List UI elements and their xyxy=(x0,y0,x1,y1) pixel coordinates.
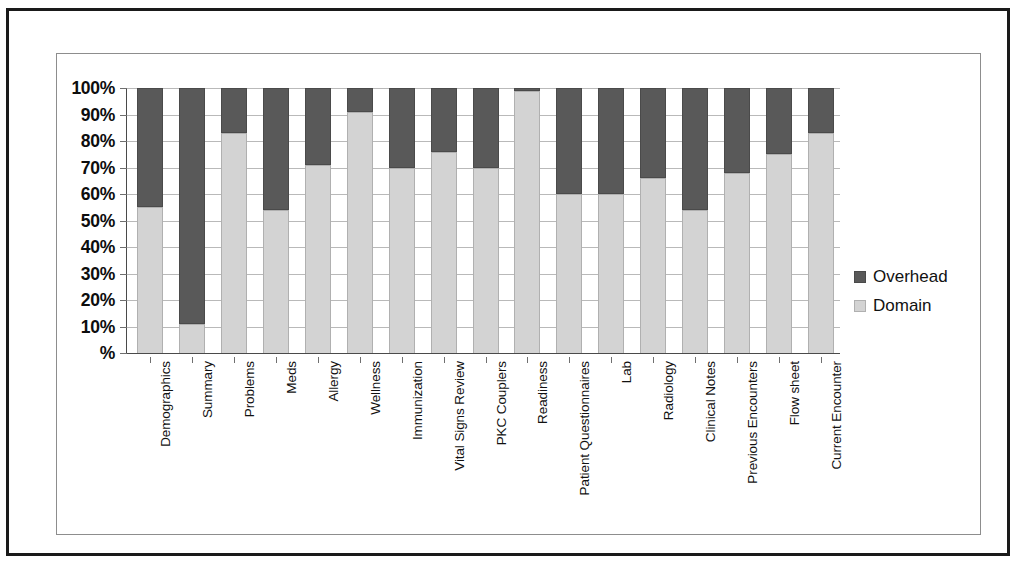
bar-segment-overhead[interactable] xyxy=(431,88,457,152)
x-axis-category-text: Patient Questionnaires xyxy=(577,361,592,495)
bar-column[interactable] xyxy=(137,88,163,353)
x-axis-category-label: Patient Questionnaires xyxy=(556,357,582,527)
y-axis-tick-mark xyxy=(120,221,127,222)
y-axis-tick-mark xyxy=(120,88,127,89)
bar-segment-overhead[interactable] xyxy=(514,88,540,91)
bar-column[interactable] xyxy=(473,88,499,353)
bar-column[interactable] xyxy=(598,88,624,353)
y-axis-tick-mark xyxy=(120,115,127,116)
x-axis-category-text: Problems xyxy=(241,361,256,417)
y-axis-tick-label: 80% xyxy=(81,131,115,152)
legend-item[interactable]: Domain xyxy=(854,296,974,316)
bar-segment-domain[interactable] xyxy=(221,133,247,353)
y-axis-tick-mark xyxy=(120,353,127,354)
bar-segment-domain[interactable] xyxy=(682,210,708,353)
bar-segment-overhead[interactable] xyxy=(389,88,415,168)
bar-segment-domain[interactable] xyxy=(431,152,457,353)
bar-segment-domain[interactable] xyxy=(263,210,289,353)
bar-segment-overhead[interactable] xyxy=(305,88,331,165)
bar-segment-overhead[interactable] xyxy=(808,88,834,133)
bar-column[interactable] xyxy=(179,88,205,353)
y-axis-tick-mark xyxy=(120,141,127,142)
x-axis-category-text: Lab xyxy=(619,361,634,383)
bar-segment-overhead[interactable] xyxy=(137,88,163,207)
bar-segment-overhead[interactable] xyxy=(556,88,582,194)
bar-segment-domain[interactable] xyxy=(640,178,666,353)
bar-segment-overhead[interactable] xyxy=(347,88,373,112)
bar-segment-domain[interactable] xyxy=(137,207,163,353)
y-axis-tick-label: 50% xyxy=(81,210,115,231)
bar-column[interactable] xyxy=(682,88,708,353)
x-axis-category-text: Previous Encounters xyxy=(745,361,760,484)
x-axis-category-text: Allergy xyxy=(325,361,340,402)
bar-segment-overhead[interactable] xyxy=(766,88,792,154)
x-axis-category-label: Radiology xyxy=(640,357,666,527)
bar-column[interactable] xyxy=(808,88,834,353)
y-axis-tick-mark xyxy=(120,300,127,301)
x-axis-category-label: Problems xyxy=(221,357,247,527)
chart-canvas: %10%20%30%40%50%60%70%80%90%100% Demogra… xyxy=(57,54,980,534)
y-axis-tick-mark xyxy=(120,274,127,275)
y-axis-tick-label: 90% xyxy=(81,104,115,125)
outer-border-frame: %10%20%30%40%50%60%70%80%90%100% Demogra… xyxy=(6,8,1010,556)
y-axis-tick-label: 40% xyxy=(81,237,115,258)
bar-column[interactable] xyxy=(431,88,457,353)
bar-segment-domain[interactable] xyxy=(724,173,750,353)
bar-segment-domain[interactable] xyxy=(556,194,582,353)
bar-segment-domain[interactable] xyxy=(179,324,205,353)
bar-column[interactable] xyxy=(640,88,666,353)
x-axis-category-label: PKC Couplers xyxy=(473,357,499,527)
x-axis-category-text: Current Encounter xyxy=(829,361,844,470)
bar-column[interactable] xyxy=(389,88,415,353)
x-axis-category-label: Lab xyxy=(598,357,624,527)
chart-plot-frame: %10%20%30%40%50%60%70%80%90%100% Demogra… xyxy=(56,53,981,535)
bar-segment-domain[interactable] xyxy=(389,168,415,354)
bar-segment-overhead[interactable] xyxy=(724,88,750,173)
bar-segment-domain[interactable] xyxy=(766,154,792,353)
bar-segment-domain[interactable] xyxy=(514,91,540,353)
bar-column[interactable] xyxy=(263,88,289,353)
bar-segment-domain[interactable] xyxy=(808,133,834,353)
bar-column[interactable] xyxy=(766,88,792,353)
bar-segment-domain[interactable] xyxy=(473,168,499,354)
bar-column[interactable] xyxy=(347,88,373,353)
y-axis-tick-mark xyxy=(120,247,127,248)
x-axis-category-label: Readiness xyxy=(514,357,540,527)
bar-segment-overhead[interactable] xyxy=(179,88,205,324)
x-axis-category-text: Clinical Notes xyxy=(703,361,718,442)
x-axis-category-label: Vital Signs Review xyxy=(431,357,457,527)
y-axis-tick-label: 60% xyxy=(81,184,115,205)
bar-column[interactable] xyxy=(221,88,247,353)
bar-segment-domain[interactable] xyxy=(305,165,331,353)
chart-legend: OverheadDomain xyxy=(854,267,974,325)
x-axis-category-text: PKC Couplers xyxy=(493,361,508,445)
bar-segment-overhead[interactable] xyxy=(473,88,499,168)
bar-segment-overhead[interactable] xyxy=(682,88,708,210)
x-axis-category-text: Meds xyxy=(283,361,298,394)
bar-segment-overhead[interactable] xyxy=(598,88,624,194)
bar-segment-domain[interactable] xyxy=(598,194,624,353)
x-axis-category-label: Current Encounter xyxy=(808,357,834,527)
bar-column[interactable] xyxy=(305,88,331,353)
x-axis-line xyxy=(126,353,840,354)
bar-segment-overhead[interactable] xyxy=(221,88,247,133)
x-axis-category-text: Demographics xyxy=(157,361,172,447)
y-axis-tick-mark xyxy=(120,168,127,169)
x-axis-category-label: Flow sheet xyxy=(766,357,792,527)
bar-segment-domain[interactable] xyxy=(347,112,373,353)
bar-segment-overhead[interactable] xyxy=(263,88,289,210)
y-axis-tick-label: % xyxy=(100,343,115,364)
legend-swatch-icon xyxy=(854,300,866,312)
x-axis-category-label: Clinical Notes xyxy=(682,357,708,527)
legend-item[interactable]: Overhead xyxy=(854,267,974,287)
y-axis-tick-label: 30% xyxy=(81,263,115,284)
bar-segment-overhead[interactable] xyxy=(640,88,666,178)
legend-item-label: Domain xyxy=(873,296,932,316)
bar-column[interactable] xyxy=(556,88,582,353)
x-axis-category-label: Allergy xyxy=(305,357,331,527)
bar-column[interactable] xyxy=(514,88,540,353)
bar-column[interactable] xyxy=(724,88,750,353)
y-axis-tick-label: 10% xyxy=(81,316,115,337)
y-axis-tick-mark xyxy=(120,327,127,328)
legend-swatch-icon xyxy=(854,271,866,283)
